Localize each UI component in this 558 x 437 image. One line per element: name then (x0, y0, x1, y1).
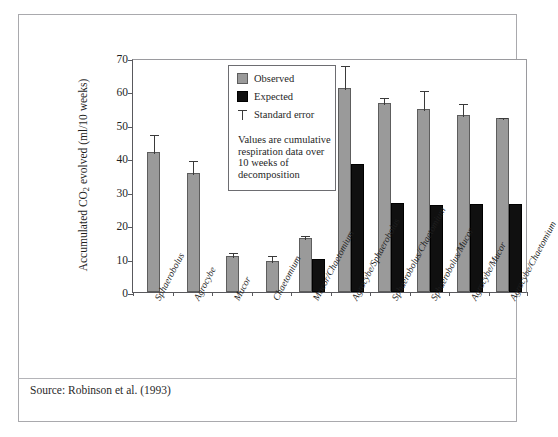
x-tick-mark (291, 292, 292, 296)
y-tick-label: 30 (117, 188, 129, 200)
error-bar-cap (341, 66, 350, 67)
cut-off-text-ghost: · · · · · · · (28, 0, 508, 3)
bar-observed (417, 109, 430, 292)
y-tick-label: 70 (117, 54, 129, 66)
black-square-icon (237, 91, 248, 102)
y-tick-label: 50 (117, 121, 129, 133)
y-tick-mark (128, 93, 133, 94)
chart-legend: Observed Expected Standard error Values … (228, 65, 336, 191)
y-tick-label: 40 (117, 155, 129, 167)
y-tick-mark (128, 160, 133, 161)
legend-item-observed: Observed (237, 73, 294, 84)
source-divider (18, 378, 517, 379)
error-bar (193, 161, 194, 175)
bar-observed (187, 173, 200, 292)
legend-label-observed: Observed (254, 73, 294, 84)
y-tick-mark (128, 227, 133, 228)
x-tick-mark (133, 292, 134, 296)
y-tick-mark (128, 261, 133, 262)
error-bar-cap (301, 236, 310, 237)
error-bar-icon (237, 109, 248, 120)
x-tick-mark (173, 292, 174, 296)
bar-observed (496, 118, 509, 292)
error-bar-cap (420, 91, 429, 92)
legend-item-expected: Expected (237, 91, 293, 102)
y-axis-title-post: evolved (ml/10 weeks) (77, 79, 89, 187)
top-cut-off-text-sliver: · · · · · · · (0, 0, 535, 11)
source-note: Source: Robinson et al. (1993) (30, 384, 171, 396)
error-bar (154, 135, 155, 154)
x-tick-mark (449, 292, 450, 296)
legend-note: Values are cumulative respiration data o… (238, 134, 332, 180)
figure-border: 010203040506070 Accumulated CO2 evolved … (18, 14, 517, 422)
y-tick-mark (128, 194, 133, 195)
error-bar-cap (189, 161, 198, 162)
error-bar-cap (268, 256, 277, 257)
x-tick-mark (527, 292, 528, 296)
y-axis-title-subscript: 2 (82, 187, 91, 191)
x-tick-mark (252, 292, 253, 296)
y-tick-label: 60 (117, 88, 129, 100)
x-tick-mark (410, 292, 411, 296)
x-tick-mark (370, 292, 371, 296)
error-bar-cap (499, 118, 508, 119)
y-axis-title-pre: Accumulated CO (77, 191, 89, 271)
gray-square-icon (237, 73, 248, 84)
bar-observed (457, 115, 470, 292)
bar-observed (147, 152, 160, 292)
legend-label-expected: Expected (254, 91, 293, 102)
error-bar (384, 98, 385, 105)
x-tick-mark (331, 292, 332, 296)
y-tick-label: 0 (122, 288, 128, 300)
y-tick-mark (128, 127, 133, 128)
error-bar (345, 66, 346, 90)
x-tick-mark (489, 292, 490, 296)
error-bar-cap (229, 253, 238, 254)
error-bar-cap (459, 104, 468, 105)
legend-item-standard-error: Standard error (237, 109, 314, 120)
bar-observed (378, 103, 391, 292)
y-axis-title: Accumulated CO2 evolved (ml/10 weeks) (77, 60, 91, 290)
y-tick-mark (128, 60, 133, 61)
y-tick-label: 10 (117, 255, 129, 267)
error-bar-cap (150, 135, 159, 136)
legend-label-standard-error: Standard error (254, 109, 314, 120)
y-tick-label: 20 (117, 221, 129, 233)
error-bar (424, 91, 425, 111)
error-bar (272, 256, 273, 263)
x-tick-mark (212, 292, 213, 296)
bar-observed (299, 238, 312, 292)
error-bar (463, 104, 464, 116)
error-bar-cap (380, 98, 389, 99)
